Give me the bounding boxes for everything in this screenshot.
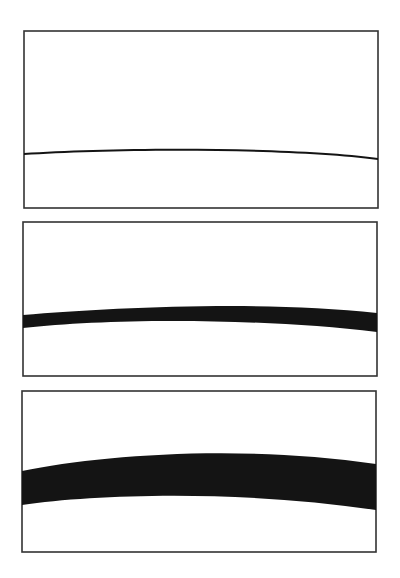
panel-frame	[23, 222, 377, 376]
panel-frame	[24, 31, 378, 208]
panel-thick-band	[22, 391, 376, 552]
panel-medium-band	[23, 222, 377, 376]
panel-thin-line	[24, 31, 378, 208]
figure-canvas	[0, 0, 400, 578]
